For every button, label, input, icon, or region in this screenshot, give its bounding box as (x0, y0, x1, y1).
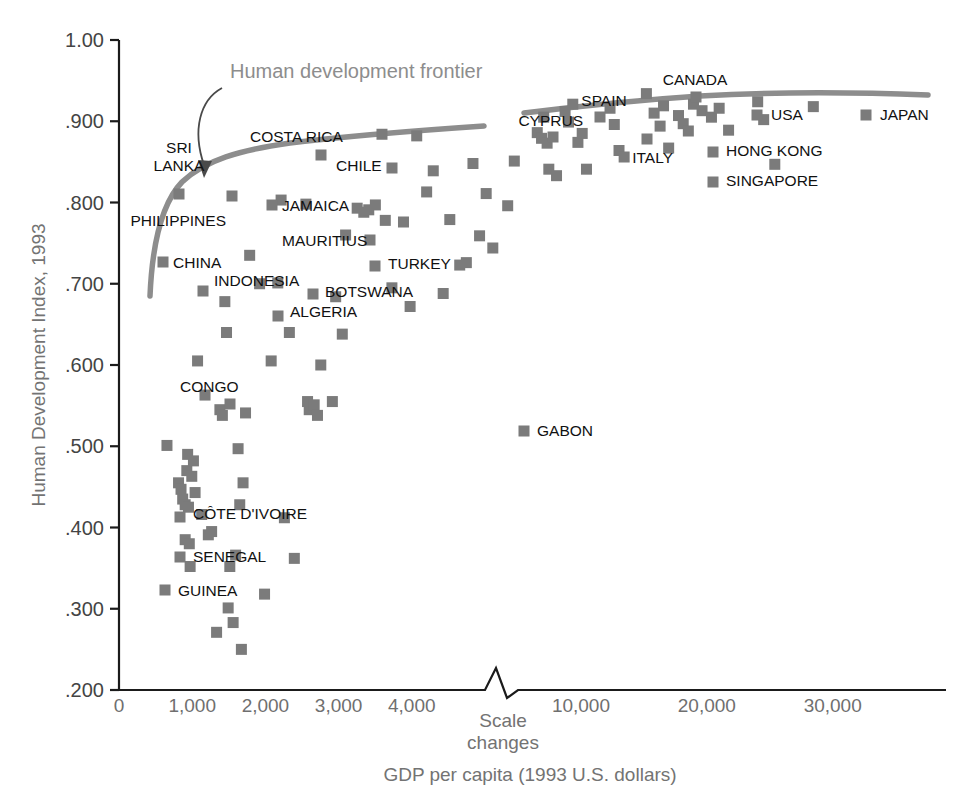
data-point-marker (289, 553, 300, 564)
data-point-marker (315, 360, 326, 371)
data-point-marker (223, 602, 234, 613)
x-axis-tick-label: 30,000 (804, 695, 862, 716)
data-point-label-chile: CHILE (336, 157, 382, 174)
data-point-marker (428, 165, 439, 176)
data-point-marker (487, 243, 498, 254)
data-point-marker (188, 455, 199, 466)
data-point-label-china: CHINA (173, 254, 222, 271)
data-point-marker (186, 471, 197, 482)
data-point-marker (438, 288, 449, 299)
data-point-marker-italy (642, 134, 653, 145)
data-point-marker (238, 477, 249, 488)
data-point-label-jamaica: JAMAICA (282, 197, 350, 214)
data-point-label-usa: USA (771, 106, 804, 123)
x-axis-tick-label: 3,000 (315, 695, 363, 716)
y-axis-tick-label: .500 (65, 435, 104, 457)
data-point-marker (421, 186, 432, 197)
data-point-label-cyprus: CYPRUS (518, 112, 583, 129)
data-point-marker (461, 257, 472, 268)
data-point-marker (327, 396, 338, 407)
data-point-marker (190, 487, 201, 498)
x-axis-tick-label: 20,000 (678, 695, 736, 716)
data-point-marker (697, 105, 708, 116)
data-point-label-spain: SPAIN (581, 92, 626, 109)
data-point-label-sri-lanka: SRI (166, 139, 192, 156)
y-axis-tick-label: 1.00 (65, 29, 104, 51)
data-point-marker (236, 644, 247, 655)
data-point-marker-indonesia (198, 286, 209, 297)
data-point-marker (221, 327, 232, 338)
data-point-marker-algeria (273, 311, 284, 322)
y-axis-tick-label: .200 (65, 679, 104, 701)
y-axis-title: Human Development Index, 1993 (28, 223, 49, 506)
data-point-marker (176, 484, 187, 495)
data-point-marker (444, 214, 455, 225)
data-point-marker (312, 410, 323, 421)
data-point-marker-botswana (308, 289, 319, 300)
data-point-marker (240, 407, 251, 418)
data-point-marker (619, 152, 630, 163)
data-point-label-hong-kong: HONG KONG (726, 142, 822, 159)
data-point-marker (284, 327, 295, 338)
x-axis-line (119, 668, 946, 698)
x-axis-title: GDP per capita (1993 U.S. dollars) (383, 764, 676, 785)
data-point-marker (609, 119, 620, 130)
data-point-marker-philippines (227, 191, 238, 202)
y-axis-tick-label: .800 (65, 192, 104, 214)
data-point-marker (228, 617, 239, 628)
data-point-marker (723, 125, 734, 136)
x-axis-tick-label: 2,000 (242, 695, 290, 716)
data-point-label-sri-lanka: LANKA (154, 157, 205, 174)
data-point-marker-guinea (160, 585, 171, 596)
data-point-marker-congo (225, 399, 236, 410)
data-point-marker (376, 129, 387, 140)
data-point-marker (266, 355, 277, 366)
data-point-marker-costa-rica (316, 150, 327, 161)
data-point-marker (649, 108, 660, 119)
data-point-marker (655, 121, 666, 132)
data-point-marker (567, 99, 578, 110)
data-point-marker-hong-kong (708, 147, 719, 158)
chart-page: SRILANKAPHILIPPINESCHINAINDONESIACOSTA R… (0, 0, 974, 811)
data-point-label-mauritius: MAURITIUS (282, 232, 367, 249)
data-point-marker-gabon (519, 426, 530, 437)
data-point-label-canada: CANADA (663, 71, 728, 88)
data-point-marker-jamaica (267, 200, 278, 211)
data-point-label-singapore: SINGAPORE (726, 172, 818, 189)
data-point-marker (192, 355, 203, 366)
data-point-marker (502, 200, 513, 211)
data-point-marker (467, 158, 478, 169)
scatter-chart: SRILANKAPHILIPPINESCHINAINDONESIACOSTA R… (0, 0, 974, 811)
y-axis-ticks: .200.300.400.500.600.700.800.9001.00 (65, 29, 119, 701)
data-point-label-c-te-d-ivoire: CÔTE D'IVOIRE (193, 505, 307, 522)
data-point-marker (683, 126, 694, 137)
data-point-label-japan: JAPAN (880, 106, 929, 123)
data-point-label-indonesia: INDONESIA (214, 272, 300, 289)
data-point-marker-spain (595, 112, 606, 123)
data-point-marker (398, 217, 409, 228)
data-point-marker (233, 443, 244, 454)
x-axis-tick-label: 1,000 (168, 695, 216, 716)
data-point-marker (219, 296, 230, 307)
data-point-marker (769, 159, 780, 170)
data-point-marker (380, 215, 391, 226)
x-axis-tick-label: 10,000 (552, 695, 610, 716)
data-point-marker-canada (691, 92, 702, 103)
data-point-marker (309, 399, 320, 410)
data-point-marker (161, 440, 172, 451)
data-point-marker (581, 164, 592, 175)
data-point-marker (641, 88, 652, 99)
data-point-marker (714, 103, 725, 114)
frontier-annotation-label: Human development frontier (230, 60, 483, 82)
data-point-marker (658, 100, 669, 111)
data-point-marker (259, 589, 270, 600)
data-point-marker (551, 170, 562, 181)
data-point-marker (577, 128, 588, 139)
data-point-marker-c-te-d-ivoire (175, 512, 186, 523)
x-axis-tick-label: 4,000 (388, 695, 436, 716)
y-axis-tick-label: .600 (65, 354, 104, 376)
data-point-label-costa-rica: COSTA RICA (250, 128, 343, 145)
data-point-marker-japan (861, 110, 872, 121)
data-point-marker-china (158, 257, 169, 268)
y-axis-tick-label: .700 (65, 273, 104, 295)
